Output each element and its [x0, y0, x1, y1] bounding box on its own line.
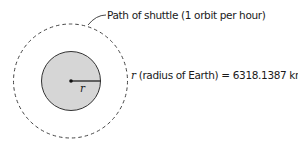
- center-point: [69, 79, 73, 83]
- orbit-label: Path of shuttle (1 orbit per hour): [107, 10, 266, 21]
- radius-marker: r: [80, 83, 85, 94]
- radius-description: (radius of Earth) = 6318.1387 km: [136, 69, 298, 81]
- radius-label: r (radius of Earth) = 6318.1387 km: [131, 70, 298, 81]
- leader-line: [88, 15, 106, 25]
